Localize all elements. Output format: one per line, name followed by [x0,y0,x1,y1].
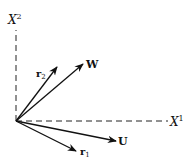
vector-r2-label: r2 [36,68,46,81]
vector-r1-label: r1 [80,146,90,159]
vector-w-label: W [85,58,99,71]
vector-u-label: U [118,135,128,148]
vector-u-arrow [16,121,116,141]
x1-axis-label: X1 [169,114,184,129]
vector-r1-arrow [16,121,76,151]
x2-axis-label: X2 [7,12,22,27]
vector-w-arrow [16,64,83,121]
vector-diagram: X2 X1 r2 W U r1 [0,0,193,168]
